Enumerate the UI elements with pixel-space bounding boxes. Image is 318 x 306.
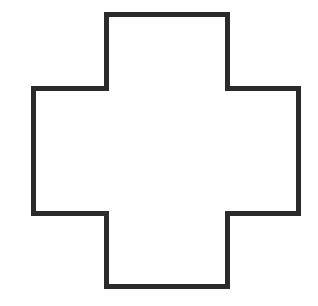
cross-outline-shape: [34, 15, 299, 287]
figure-canvas: [0, 0, 318, 306]
cross-figure: [0, 0, 318, 306]
